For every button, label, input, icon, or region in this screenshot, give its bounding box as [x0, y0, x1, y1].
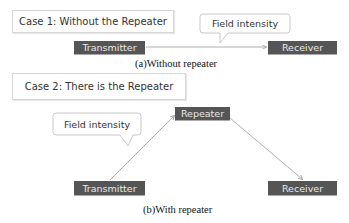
- arrow-repeater-to-receiver: [230, 118, 302, 179]
- case1-callout-label: Field intensity: [200, 14, 290, 33]
- case2-repeater-node: Repeater: [175, 107, 230, 121]
- case2-caption: (b)With repeater: [143, 204, 212, 215]
- case1-receiver-node: Receiver: [268, 41, 337, 55]
- case2-title: Case 2: There is the Repeater: [25, 81, 174, 92]
- case2-callout-label: Field intensity: [53, 113, 141, 135]
- case1-transmitter-node: Transmitter: [74, 41, 145, 55]
- case2-title-box: Case 2: There is the Repeater: [12, 73, 186, 100]
- case1-caption: (a)Without repeater: [135, 58, 217, 69]
- case1-title-box: Case 1: Without the Repeater: [12, 10, 174, 33]
- case2-receiver-node: Receiver: [268, 181, 337, 196]
- case2-transmitter-node: Transmitter: [74, 181, 145, 196]
- case1-title: Case 1: Without the Repeater: [19, 16, 167, 27]
